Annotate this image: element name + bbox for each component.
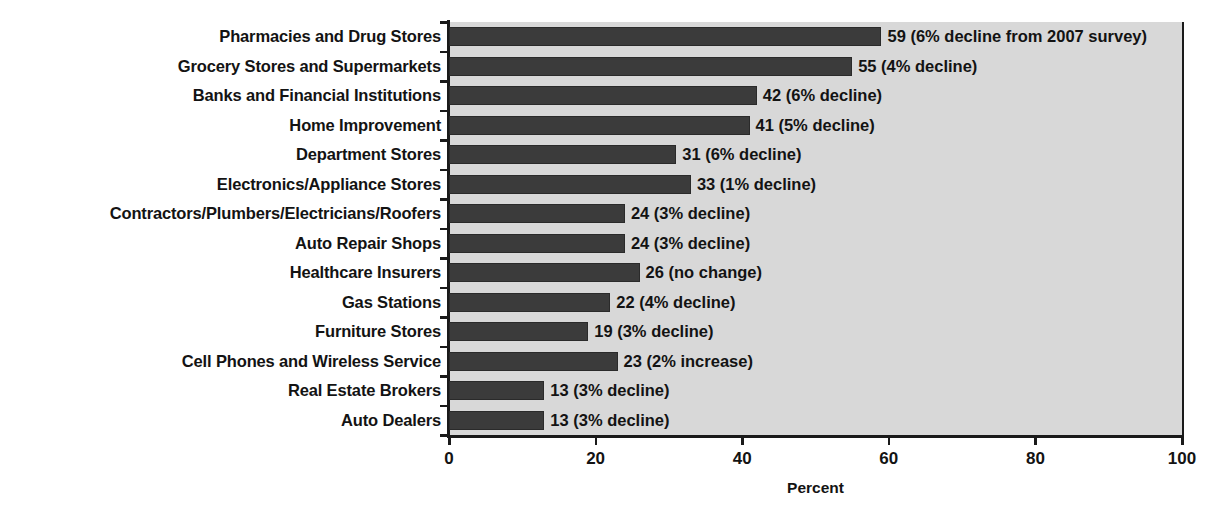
bar-value-label: 26 (no change) [640,260,762,285]
bar-row: 22 (4% decline) [449,288,1182,318]
category-label: Pharmacies and Drug Stores [219,22,441,52]
bar-value-label: 24 (3% decline) [625,201,750,226]
y-tick [440,80,449,83]
category-label: Home Improvement [289,111,441,141]
bar [449,204,625,223]
y-tick [440,198,449,201]
y-tick [440,139,449,142]
x-tick-label: 20 [586,449,605,469]
bar-row: 55 (4% decline) [449,52,1182,82]
bar [449,322,588,341]
bar-value-label: 13 (3% decline) [544,378,669,403]
bar-value-label: 23 (2% increase) [618,349,753,374]
category-label: Real Estate Brokers [288,376,441,406]
bar-value-label: 55 (4% decline) [852,54,977,79]
category-axis-labels: Pharmacies and Drug StoresGrocery Stores… [0,22,441,435]
category-label: Cell Phones and Wireless Service [182,347,441,377]
y-tick [440,169,449,172]
x-tick [1034,435,1037,445]
bar-value-label: 22 (4% decline) [610,290,735,315]
x-axis-title: Percent [449,479,1182,497]
bar-row: 31 (6% decline) [449,140,1182,170]
bar [449,145,676,164]
bar [449,381,544,400]
x-tick [448,435,451,445]
bar [449,86,757,105]
category-label: Contractors/Plumbers/Electricians/Roofer… [110,199,441,229]
x-tick [888,435,891,445]
bar-row: 24 (3% decline) [449,199,1182,229]
category-label: Grocery Stores and Supermarkets [178,52,441,82]
category-label: Auto Dealers [341,406,441,436]
x-tick [1181,435,1184,445]
bar [449,352,618,371]
bar-value-label: 42 (6% decline) [757,83,882,108]
y-tick [440,287,449,290]
bar-row: 23 (2% increase) [449,347,1182,377]
y-tick [440,405,449,408]
bar-value-label: 19 (3% decline) [588,319,713,344]
category-label: Healthcare Insurers [290,258,441,288]
x-tick-label: 80 [1026,449,1045,469]
bar-row: 41 (5% decline) [449,111,1182,141]
bar-value-label: 24 (3% decline) [625,231,750,256]
category-label: Department Stores [296,140,441,170]
bar [449,293,610,312]
x-tick-label: 40 [733,449,752,469]
category-label: Banks and Financial Institutions [193,81,441,111]
x-tick-label: 60 [879,449,898,469]
bar-row: 42 (6% decline) [449,81,1182,111]
x-tick [595,435,598,445]
category-label: Electronics/Appliance Stores [217,170,441,200]
category-label: Gas Stations [342,288,441,318]
category-label: Furniture Stores [315,317,441,347]
x-tick [741,435,744,445]
bar [449,411,544,430]
bar [449,27,881,46]
y-tick [440,257,449,260]
y-tick [440,375,449,378]
x-tick-label: 0 [444,449,453,469]
bar-value-label: 41 (5% decline) [750,113,875,138]
bar-row: 24 (3% decline) [449,229,1182,259]
y-tick [440,51,449,54]
bars-layer: 59 (6% decline from 2007 survey)55 (4% d… [449,22,1182,435]
bar-row: 19 (3% decline) [449,317,1182,347]
bar-row: 33 (1% decline) [449,170,1182,200]
y-tick [440,316,449,319]
bar-value-label: 33 (1% decline) [691,172,816,197]
bar-value-label: 59 (6% decline from 2007 survey) [881,24,1147,49]
bar [449,116,750,135]
bar-row: 13 (3% decline) [449,376,1182,406]
horizontal-bar-chart: Pharmacies and Drug StoresGrocery Stores… [0,0,1216,515]
y-tick [440,21,449,24]
y-tick [440,346,449,349]
y-tick [440,228,449,231]
bar [449,263,640,282]
bar [449,234,625,253]
bar-row: 59 (6% decline from 2007 survey) [449,22,1182,52]
x-axis-line [447,435,1184,438]
x-tick-label: 100 [1168,449,1196,469]
bar [449,57,852,76]
bar-row: 26 (no change) [449,258,1182,288]
y-tick [440,110,449,113]
bar [449,175,691,194]
bar-value-label: 13 (3% decline) [544,408,669,433]
category-label: Auto Repair Shops [295,229,441,259]
bar-row: 13 (3% decline) [449,406,1182,436]
bar-value-label: 31 (6% decline) [676,142,801,167]
